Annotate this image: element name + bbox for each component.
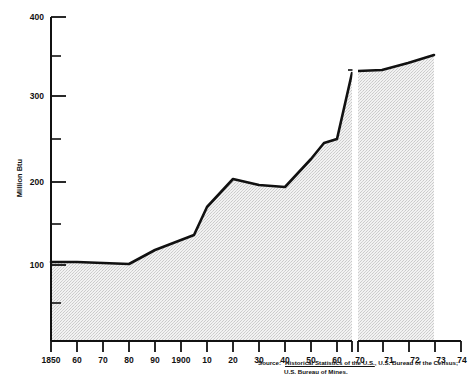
y-tick-label-100: 100 bbox=[30, 260, 44, 270]
y-tick-label-300: 300 bbox=[30, 91, 44, 101]
source-publication-title: Historical Statistics of the U.S. bbox=[285, 359, 375, 366]
x-tick-label-1900: 1900 bbox=[172, 355, 191, 365]
x-tick-label-1890: 90 bbox=[150, 355, 160, 365]
y-axis-title: Million Btu bbox=[15, 158, 24, 197]
x-tick-label-1920: 20 bbox=[228, 355, 238, 365]
y-tick-label-400: 400 bbox=[30, 12, 44, 22]
source-publisher-2: U.S. Bureau of Mines. bbox=[284, 368, 348, 375]
x-tick-label-1880: 80 bbox=[124, 355, 134, 365]
x-axis-ticks bbox=[51, 341, 461, 352]
area-fill-secondary bbox=[358, 56, 434, 341]
area-fill-primary bbox=[51, 73, 352, 341]
x-tick-label-1850: 1850 bbox=[42, 355, 61, 365]
energy-consumption-chart: 400 300 200 100 Million Btu bbox=[0, 0, 468, 386]
x-tick-label-1870: 70 bbox=[98, 355, 108, 365]
y-axis-major-ticks bbox=[51, 17, 66, 265]
source-publisher-1: , U.S. Bureau of the Census; bbox=[375, 359, 458, 366]
source-note: Source:Historical Statistics of the U.S.… bbox=[258, 359, 466, 376]
x-tick-label-1910: 10 bbox=[202, 355, 212, 365]
axis-break-gap bbox=[353, 11, 359, 341]
source-label: Source: bbox=[258, 359, 281, 368]
chart-canvas: 400 300 200 100 Million Btu bbox=[0, 0, 468, 386]
x-tick-label-1860: 60 bbox=[72, 355, 82, 365]
y-tick-label-200: 200 bbox=[30, 177, 44, 187]
